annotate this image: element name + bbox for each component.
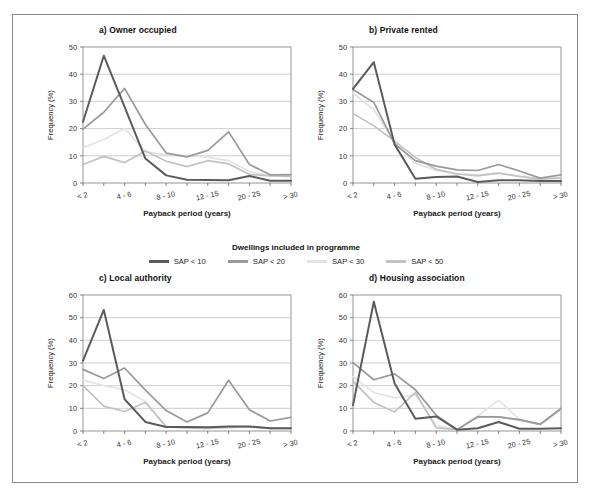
x-tick-label: 12 - 15 bbox=[195, 189, 219, 203]
y-tick-label: 0 bbox=[343, 427, 347, 436]
y-tick-label: 50 bbox=[339, 313, 347, 322]
y-tick-label: 40 bbox=[339, 70, 347, 79]
x-tick-label: > 30 bbox=[282, 438, 298, 450]
x-tick-label: 8 - 10 bbox=[155, 189, 175, 202]
x-axis-title: Payback period (years) bbox=[143, 457, 231, 466]
legend-swatch-icon bbox=[228, 260, 248, 262]
chart-svg-b: 01020304050< 24 - 68 - 1012 - 1520 - 25>… bbox=[301, 19, 569, 235]
x-tick-label: 8 - 10 bbox=[155, 437, 175, 450]
legend-swatch-icon bbox=[149, 260, 169, 262]
y-tick-label: 20 bbox=[339, 381, 347, 390]
legend-item-4: SAP < 50 bbox=[386, 257, 443, 266]
y-tick-label: 30 bbox=[339, 359, 347, 368]
y-tick-label: 0 bbox=[73, 427, 77, 436]
y-axis-title: Frequency (%) bbox=[316, 90, 325, 140]
legend-title: Dwellings included in programme bbox=[13, 243, 579, 252]
legend-item-2: SAP < 20 bbox=[228, 257, 285, 266]
y-axis-title: Frequency (%) bbox=[316, 338, 325, 388]
figure-frame: a) Owner occupied 01020304050< 24 - 68 -… bbox=[12, 14, 578, 483]
chart-panel-private-rented: b) Private rented 01020304050< 24 - 68 -… bbox=[301, 19, 569, 235]
y-tick-label: 50 bbox=[69, 43, 77, 52]
y-tick-label: 30 bbox=[339, 97, 347, 106]
x-tick-label: 20 - 25 bbox=[237, 189, 261, 203]
y-tick-label: 30 bbox=[69, 97, 77, 106]
x-tick-label: < 2 bbox=[346, 190, 358, 201]
x-tick-label: 8 - 10 bbox=[425, 189, 445, 202]
y-tick-label: 40 bbox=[69, 70, 77, 79]
y-tick-label: 60 bbox=[339, 291, 347, 300]
x-tick-label: 4 - 6 bbox=[116, 190, 132, 202]
x-tick-label: 12 - 15 bbox=[465, 437, 489, 451]
chart-panel-owner-occupied: a) Owner occupied 01020304050< 24 - 68 -… bbox=[31, 19, 299, 235]
y-tick-label: 50 bbox=[339, 43, 347, 52]
x-tick-label: < 2 bbox=[346, 438, 358, 449]
y-tick-label: 20 bbox=[69, 124, 77, 133]
legend-label: SAP < 30 bbox=[332, 257, 364, 266]
chart-svg-c: 0102030405060< 24 - 68 - 1012 - 1520 - 2… bbox=[31, 271, 299, 483]
legend-swatch-icon bbox=[386, 260, 406, 262]
x-tick-label: 4 - 6 bbox=[116, 438, 132, 450]
x-tick-label: 8 - 10 bbox=[425, 437, 445, 450]
x-axis-title: Payback period (years) bbox=[413, 209, 501, 218]
legend-label: SAP < 50 bbox=[411, 257, 443, 266]
legend-swatch-icon bbox=[307, 260, 327, 262]
x-tick-label: < 2 bbox=[76, 190, 88, 201]
y-tick-label: 20 bbox=[69, 381, 77, 390]
y-tick-label: 40 bbox=[69, 336, 77, 345]
y-tick-label: 50 bbox=[69, 313, 77, 322]
y-axis-title: Frequency (%) bbox=[46, 338, 55, 388]
x-tick-label: 20 - 25 bbox=[507, 189, 531, 203]
chart-panel-local-authority: c) Local authority 0102030405060< 24 - 6… bbox=[31, 271, 299, 483]
legend-label: SAP < 20 bbox=[253, 257, 285, 266]
chart-svg-a: 01020304050< 24 - 68 - 1012 - 1520 - 25>… bbox=[31, 19, 299, 235]
x-tick-label: 20 - 25 bbox=[507, 437, 531, 451]
y-tick-label: 20 bbox=[339, 124, 347, 133]
y-tick-label: 10 bbox=[339, 404, 347, 413]
y-tick-label: 0 bbox=[343, 179, 347, 188]
x-tick-label: 4 - 6 bbox=[386, 438, 402, 450]
x-tick-label: 20 - 25 bbox=[237, 437, 261, 451]
x-tick-label: 12 - 15 bbox=[195, 437, 219, 451]
x-tick-label: > 30 bbox=[282, 190, 298, 202]
y-tick-label: 10 bbox=[69, 404, 77, 413]
y-tick-label: 40 bbox=[339, 336, 347, 345]
x-axis-title: Payback period (years) bbox=[143, 209, 231, 218]
x-tick-label: 4 - 6 bbox=[386, 190, 402, 202]
legend-items-row: SAP < 10SAP < 20SAP < 30SAP < 50 bbox=[13, 257, 579, 266]
x-axis-title: Payback period (years) bbox=[413, 457, 501, 466]
y-tick-label: 10 bbox=[69, 152, 77, 161]
chart-svg-d: 0102030405060< 24 - 68 - 1012 - 1520 - 2… bbox=[301, 271, 569, 483]
x-tick-label: > 30 bbox=[552, 438, 568, 450]
y-axis-title: Frequency (%) bbox=[46, 90, 55, 140]
x-tick-label: > 30 bbox=[552, 190, 568, 202]
y-tick-label: 60 bbox=[69, 291, 77, 300]
legend-item-3: SAP < 30 bbox=[307, 257, 364, 266]
x-tick-label: 12 - 15 bbox=[465, 189, 489, 203]
legend-label: SAP < 10 bbox=[174, 257, 206, 266]
chart-panel-housing-association: d) Housing association 0102030405060< 24… bbox=[301, 271, 569, 483]
x-tick-label: < 2 bbox=[76, 438, 88, 449]
legend-item-1: SAP < 10 bbox=[149, 257, 206, 266]
y-tick-label: 10 bbox=[339, 152, 347, 161]
y-tick-label: 0 bbox=[73, 179, 77, 188]
y-tick-label: 30 bbox=[69, 359, 77, 368]
